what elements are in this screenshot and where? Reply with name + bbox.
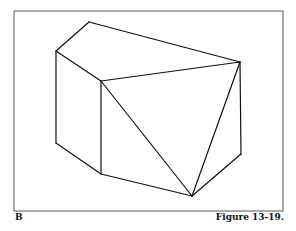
panel-label: B bbox=[15, 212, 23, 222]
edge-inner_bottom-bottom_front bbox=[101, 174, 192, 196]
figure-frame bbox=[14, 11, 283, 211]
figure-caption: Figure 13-19. bbox=[216, 212, 284, 222]
edge-top_back-left_top bbox=[56, 22, 89, 51]
edge-left_bottom-inner_bottom bbox=[56, 143, 101, 174]
edge-inner_top-right_top bbox=[101, 62, 240, 81]
edge-inner_top-bottom_front bbox=[101, 81, 192, 196]
polyhedron-edges bbox=[56, 22, 241, 196]
edge-right_top-right_bottom bbox=[240, 62, 241, 154]
polyhedron-figure bbox=[0, 0, 296, 231]
edge-top_back-right_top bbox=[89, 22, 240, 62]
edge-left_top-inner_top bbox=[56, 51, 101, 81]
